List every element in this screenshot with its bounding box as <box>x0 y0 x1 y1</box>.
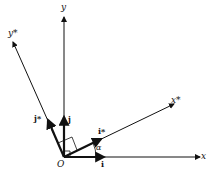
i-star-label: i* <box>98 127 105 135</box>
i-label: i <box>101 160 104 168</box>
j-star-vector <box>48 120 64 157</box>
x-axis-label: x <box>201 152 206 161</box>
j-star-label: j* <box>34 114 41 122</box>
y-axis-label: y <box>61 3 66 12</box>
angle-label: α <box>96 144 101 152</box>
x-star-axis-label: x* <box>171 96 181 105</box>
coordinate-diagram <box>0 0 208 171</box>
y-star-axis-label: y* <box>8 29 18 38</box>
origin-label: O <box>57 160 64 169</box>
j-label: j <box>68 115 71 123</box>
